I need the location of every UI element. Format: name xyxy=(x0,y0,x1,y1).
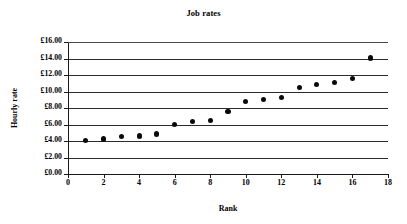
y-axis-tick xyxy=(64,108,68,109)
data-point xyxy=(243,99,248,104)
y-tick-label: £0.00 xyxy=(44,168,62,177)
y-tick-label: £10.00 xyxy=(41,86,62,95)
y-tick-label: £14.00 xyxy=(41,53,62,62)
x-axis-line xyxy=(68,174,388,175)
data-point xyxy=(225,109,230,114)
gridline-y xyxy=(68,92,388,93)
y-axis-title: Hourly rate xyxy=(10,88,19,128)
data-point xyxy=(314,82,319,87)
gridline-y xyxy=(68,42,388,43)
x-tick-label: 2 xyxy=(94,178,114,187)
data-point xyxy=(261,97,266,102)
y-tick-label: £16.00 xyxy=(41,36,62,45)
y-axis-tick xyxy=(64,158,68,159)
data-point xyxy=(101,136,106,141)
data-point xyxy=(350,76,355,81)
y-axis-tick xyxy=(64,92,68,93)
y-axis-tick xyxy=(64,141,68,142)
job-rates-chart: Job rates Hourly rate Rank £0.00£2.00£4.… xyxy=(0,0,407,224)
data-point xyxy=(154,131,159,136)
data-point xyxy=(190,119,195,124)
x-tick-label: 10 xyxy=(236,178,256,187)
data-point xyxy=(368,55,373,60)
y-tick-label: £2.00 xyxy=(44,152,62,161)
x-tick-label: 18 xyxy=(378,178,398,187)
gridline-y xyxy=(68,75,388,76)
gridline-y xyxy=(68,125,388,126)
gridline-y xyxy=(68,158,388,159)
data-point xyxy=(119,134,124,139)
x-axis-title: Rank xyxy=(68,204,388,213)
y-axis-tick xyxy=(64,42,68,43)
x-tick-label: 12 xyxy=(271,178,291,187)
y-tick-label: £12.00 xyxy=(41,69,62,78)
data-point xyxy=(208,118,213,123)
data-point xyxy=(137,133,142,138)
y-tick-label: £6.00 xyxy=(44,119,62,128)
y-axis-tick xyxy=(64,125,68,126)
gridline-y xyxy=(68,141,388,142)
x-tick-label: 6 xyxy=(165,178,185,187)
plot-area: £0.00£2.00£4.00£6.00£8.00£10.00£12.00£14… xyxy=(68,42,388,174)
x-tick-label: 4 xyxy=(129,178,149,187)
data-point xyxy=(332,80,337,85)
y-axis-tick xyxy=(64,75,68,76)
x-tick-label: 0 xyxy=(58,178,78,187)
y-tick-label: £8.00 xyxy=(44,102,62,111)
y-tick-label: £4.00 xyxy=(44,135,62,144)
data-point xyxy=(297,85,302,90)
gridline-y xyxy=(68,59,388,60)
x-tick-label: 16 xyxy=(342,178,362,187)
chart-title: Job rates xyxy=(0,8,407,18)
y-axis-tick xyxy=(64,59,68,60)
x-tick-label: 14 xyxy=(307,178,327,187)
x-tick-label: 8 xyxy=(200,178,220,187)
data-point xyxy=(279,95,284,100)
data-point xyxy=(172,122,177,127)
